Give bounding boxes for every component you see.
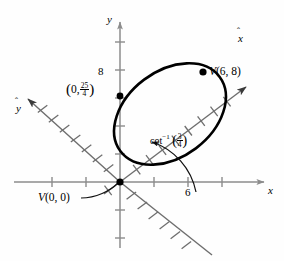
x-hat-letter: x xyxy=(238,32,243,44)
cot-function-name: cot xyxy=(150,135,162,146)
y-tick-label-8: 8 xyxy=(98,66,104,77)
x-tick-label-6: 6 xyxy=(185,187,191,198)
close-paren: ) xyxy=(89,81,94,97)
rotation-angle-label: cot−1 ( 3 4 ) xyxy=(150,133,187,150)
angle-fraction-denominator: 4 xyxy=(177,141,183,149)
fraction-denominator: 4 xyxy=(80,90,90,98)
vertex-origin-dot xyxy=(116,178,123,185)
y-intercept-label: (0, 25 4 ) xyxy=(66,82,94,99)
vertex-far-dot xyxy=(199,68,206,75)
vertex-origin-prefix: V xyxy=(38,191,45,203)
y-axis-label: y xyxy=(107,14,112,25)
rotated-conic-figure: y x ̂ x ̂ y 8 6 V(6, 8) V(0, 0) (0, 25 4… xyxy=(0,0,284,261)
y-intercept-dot xyxy=(117,93,124,100)
open-paren: ( xyxy=(66,81,71,97)
y-hat-glyph: ̂ y xyxy=(16,103,21,114)
x-axis-label: x xyxy=(268,185,273,196)
rotated-axes xyxy=(28,87,246,255)
vertex-origin-coords: (0, 0) xyxy=(45,191,70,203)
y-hat-axis-negative-ticks xyxy=(127,192,192,249)
y-intercept-fraction: 25 4 xyxy=(80,82,90,99)
ellipse-curve xyxy=(95,42,246,185)
y-intercept-x-part: 0, xyxy=(71,83,80,95)
vertex-far-prefix: V xyxy=(209,65,216,77)
angle-fraction: 3 4 xyxy=(177,133,183,150)
vertex-far-label: V(6, 8) xyxy=(209,66,241,78)
y-hat-axis-ticks xyxy=(38,105,114,172)
vertex-far-coords: (6, 8) xyxy=(216,65,241,77)
y-hat-letter: y xyxy=(16,102,21,114)
cot-exponent: −1 xyxy=(162,133,169,141)
x-hat-glyph: ̂ x xyxy=(238,33,243,44)
vertex-origin-label: V(0, 0) xyxy=(38,192,70,204)
standard-axes xyxy=(14,22,264,248)
angle-close-paren: ) xyxy=(183,133,188,148)
y-hat-axis-label: ̂ y xyxy=(16,103,21,114)
x-hat-axis-label: ̂ x xyxy=(238,33,243,44)
